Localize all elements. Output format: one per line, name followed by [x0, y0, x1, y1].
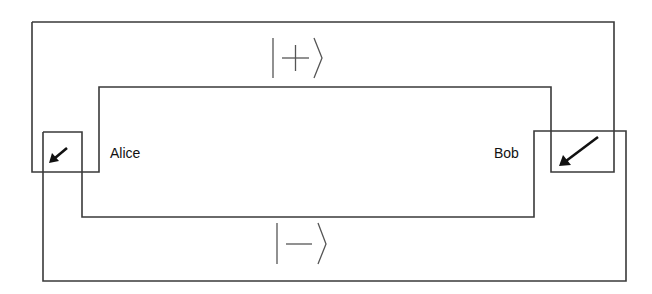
- alice-device-arrow-icon: [49, 148, 67, 163]
- quantum-channel-diagram: Alice Bob: [0, 0, 652, 294]
- bob-device-arrow-icon: [559, 137, 598, 166]
- minus-state-ket: [277, 223, 326, 264]
- ket-angle-bracket: [314, 38, 322, 78]
- ket-angle-bracket: [318, 223, 326, 264]
- plus-state-ket: [273, 38, 322, 78]
- alice-label: Alice: [110, 145, 141, 161]
- bob-label: Bob: [494, 145, 519, 161]
